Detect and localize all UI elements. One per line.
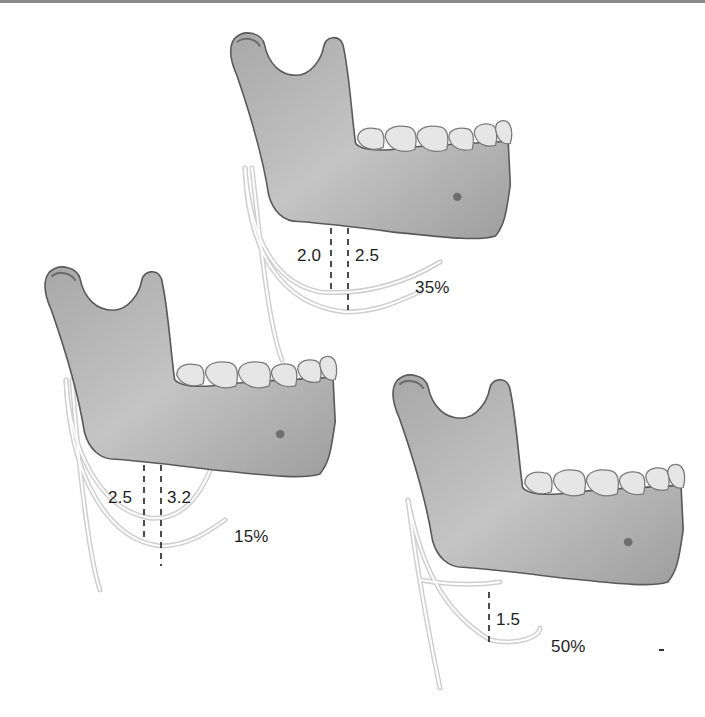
measurement-label: 1.5 [496, 611, 520, 628]
measurement-label: 2.5 [355, 247, 379, 264]
measurement-label: 2.0 [297, 247, 321, 264]
measurement-label: 2.5 [108, 489, 132, 506]
percentage-label: 50% [551, 638, 586, 655]
panel-top [231, 33, 512, 360]
panel-right [393, 375, 684, 688]
stray-mark [659, 649, 664, 651]
measurement-label: 3.2 [167, 489, 191, 506]
panel-left [45, 267, 336, 590]
percentage-label: 35% [415, 279, 450, 296]
percentage-label: 15% [234, 528, 269, 545]
mandible-illustration [0, 0, 705, 717]
